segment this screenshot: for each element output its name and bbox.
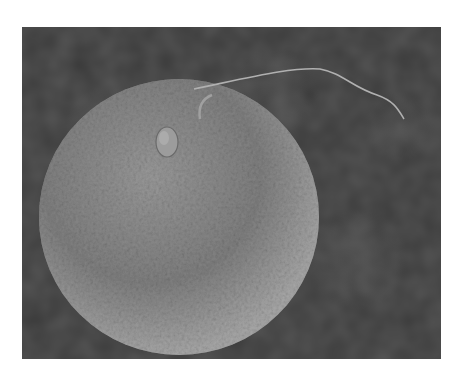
micrograph-illustration bbox=[22, 27, 441, 359]
egg-cell bbox=[39, 79, 319, 355]
micrograph-photo bbox=[22, 27, 441, 359]
sperm-head-highlight bbox=[159, 131, 169, 145]
